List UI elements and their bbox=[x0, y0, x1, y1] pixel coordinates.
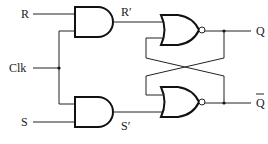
label-s: S bbox=[21, 115, 28, 129]
and-gate-top bbox=[75, 7, 113, 37]
wire-clk-distribution bbox=[59, 31, 75, 104]
label-q-bar: Q bbox=[256, 96, 265, 110]
nor-bottom-bubble-icon bbox=[199, 99, 205, 105]
label-q: Q bbox=[256, 24, 265, 38]
junction-clk bbox=[57, 66, 60, 69]
sr-latch-diagram: R Clk S R′ S′ Q Q bbox=[0, 0, 268, 144]
label-r-prime: R′ bbox=[121, 5, 132, 19]
and-gate-bottom bbox=[75, 97, 113, 127]
nor-gate-top bbox=[161, 15, 199, 45]
label-s-prime: S′ bbox=[121, 119, 131, 133]
label-r: R bbox=[21, 7, 29, 21]
nor-top-bubble-icon bbox=[199, 27, 205, 33]
label-clk: Clk bbox=[9, 61, 26, 75]
nor-gate-bottom bbox=[161, 87, 199, 117]
